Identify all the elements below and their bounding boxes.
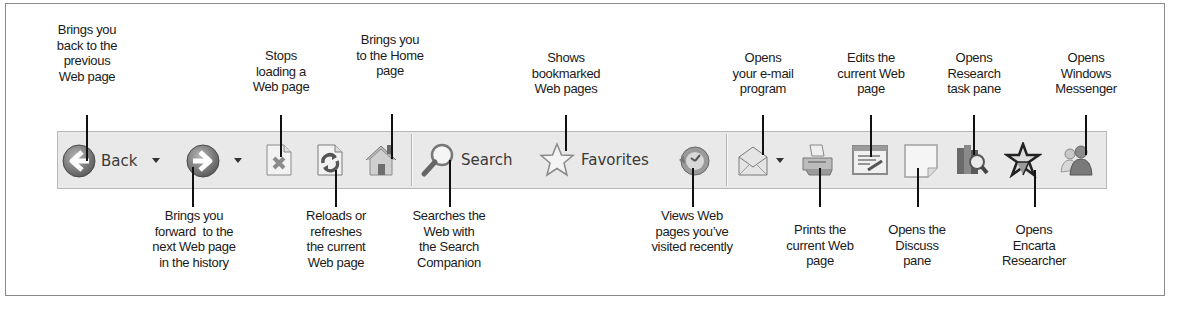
print-button[interactable] (800, 142, 836, 178)
callout-forward: Brings you forward to the next Web page … (152, 208, 235, 270)
mail-button[interactable] (737, 143, 769, 177)
refresh-icon (315, 143, 345, 177)
leader-line (1085, 115, 1087, 155)
leader-line (86, 115, 88, 161)
search-button[interactable]: Search (420, 142, 513, 178)
callout-back: Brings you back to the previous Web page (57, 22, 117, 84)
leader-line (391, 114, 393, 159)
leader-line (917, 168, 919, 207)
callout-stop: Stops loading a Web page (253, 48, 310, 95)
callout-research: Opens Research task pane (947, 50, 1001, 97)
leader-line (449, 160, 451, 207)
refresh-button[interactable] (315, 143, 345, 177)
toolbar-separator (726, 134, 728, 186)
history-icon (677, 144, 711, 178)
back-button[interactable]: Back (62, 144, 137, 178)
back-label: Back (101, 152, 137, 170)
leader-line (973, 115, 975, 155)
callout-discuss: Opens the Discuss pane (888, 222, 945, 269)
encarta-button[interactable] (1004, 142, 1042, 178)
discuss-button[interactable] (904, 144, 938, 178)
leader-line (335, 170, 337, 207)
callout-print: Prints the current Web page (786, 222, 853, 269)
callout-history: Views Web pages you’ve visited recently (651, 208, 732, 255)
leader-line (692, 168, 694, 207)
callout-favorites: Shows bookmarked Web pages (532, 50, 601, 97)
stop-icon (264, 143, 294, 177)
mail-dropdown-arrow[interactable] (776, 158, 784, 163)
discuss-note-icon (904, 144, 938, 178)
callout-home: Brings you to the Home page (356, 32, 424, 79)
leader-line (192, 167, 194, 207)
toolbar-separator (411, 134, 413, 186)
forward-dropdown-arrow[interactable] (234, 158, 242, 163)
leader-line (280, 115, 282, 157)
favorites-button[interactable]: Favorites (538, 142, 649, 178)
messenger-buddies-icon (1058, 142, 1094, 178)
stop-button[interactable] (264, 143, 294, 177)
leader-line (1034, 170, 1036, 207)
callout-encarta: Opens Encarta Researcher (1002, 222, 1066, 269)
leader-line (870, 115, 872, 157)
history-button[interactable] (677, 144, 711, 178)
callout-messenger: Opens Windows Messenger (1055, 50, 1117, 97)
messenger-button[interactable] (1058, 142, 1094, 178)
printer-icon (800, 142, 836, 178)
research-button[interactable] (955, 142, 989, 178)
callout-edit: Edits the current Web page (837, 50, 904, 97)
callout-mail: Opens your e-mail program (733, 50, 794, 97)
back-arrow-icon (62, 144, 96, 178)
leader-line (762, 115, 764, 155)
callout-search: Searches the Web with the Search Compani… (412, 208, 485, 270)
encarta-icon (1004, 142, 1042, 178)
callout-refresh: Reloads or refreshes the current Web pag… (306, 208, 366, 270)
mail-envelope-icon (737, 143, 769, 177)
research-books-icon (955, 142, 989, 178)
leader-line (819, 168, 821, 207)
search-label: Search (461, 151, 513, 169)
favorites-label: Favorites (581, 151, 649, 169)
favorites-star-icon (538, 142, 576, 178)
back-dropdown-arrow[interactable] (152, 158, 160, 163)
leader-line (565, 115, 567, 151)
